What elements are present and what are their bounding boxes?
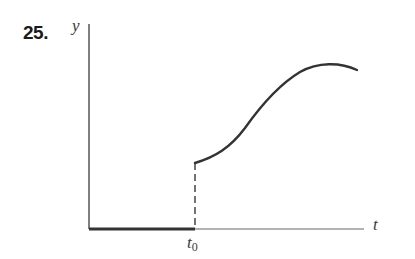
graph xyxy=(0,0,415,259)
response-curve xyxy=(195,64,357,163)
